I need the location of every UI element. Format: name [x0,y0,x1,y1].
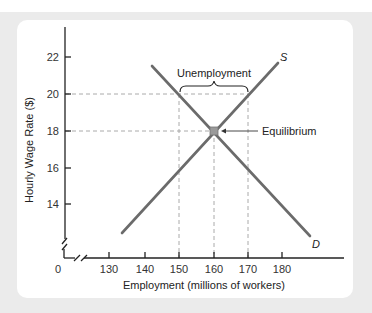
x-tick-160: 160 [205,263,223,275]
y-tick-14: 14 [47,198,59,210]
unemployment-brace [180,81,248,92]
supply-label: S [280,51,288,63]
demand-label: D [312,238,320,250]
labor-market-chart: Equilibrium Unemployment S D 22 20 18 16… [0,0,372,313]
y-tick-16: 16 [47,162,59,174]
y-axis-title: Hourly Wage Rate ($) [23,97,35,203]
x-tick-150: 150 [170,263,188,275]
supply-curve [122,63,278,233]
y-tick-20: 20 [47,88,59,100]
y-tick-18: 18 [47,125,59,137]
unemployment-label: Unemployment [177,67,251,79]
equilibrium-marker [210,127,218,135]
reference-lines [65,94,248,258]
y-tick-22: 22 [47,51,59,63]
equilibrium-arrow [221,129,258,134]
equilibrium-label: Equilibrium [262,125,316,137]
x-tick-170: 170 [239,263,257,275]
x-axis-title: Employment (millions of workers) [123,279,285,291]
x-tick-180: 180 [273,263,291,275]
demand-curve [152,66,310,236]
x-tick-130: 130 [100,263,118,275]
x-tick-140: 140 [136,263,154,275]
x-tick-0: 0 [55,263,61,275]
